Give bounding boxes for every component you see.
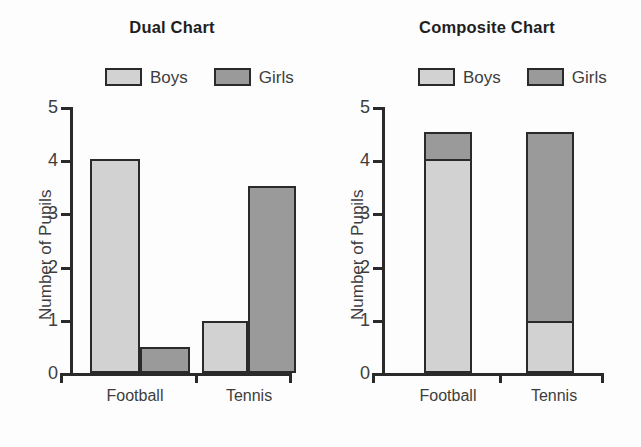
y-tick-label-4: 4	[346, 151, 370, 169]
bar-tennis-girls	[526, 132, 574, 323]
y-tick-label-4: 4	[34, 151, 58, 169]
legend-label-girls: Girls	[259, 69, 294, 86]
y-tick-4	[373, 160, 383, 163]
legend-dual: Boys Girls	[105, 68, 294, 86]
bar-football-girls	[140, 347, 190, 373]
chart-title-dual: Dual Chart	[0, 18, 320, 37]
y-tick-label-0: 0	[34, 364, 58, 382]
y-axis-line	[70, 107, 73, 374]
x-tick-label-football: Football	[80, 387, 190, 405]
legend-label-girls: Girls	[572, 69, 607, 86]
y-tick-2	[61, 267, 71, 270]
plot-area-dual: 5 4 3 2 1 0 Football Tennis	[70, 107, 292, 373]
y-tick-4	[61, 160, 71, 163]
legend-swatch-girls-icon	[214, 68, 251, 86]
bar-football-boys	[90, 159, 140, 373]
y-tick-5	[61, 107, 71, 110]
legend-item-girls: Girls	[214, 68, 294, 86]
chart-title-composite: Composite Chart	[320, 18, 640, 37]
x-tick-end	[289, 373, 292, 383]
legend-label-boys: Boys	[463, 69, 501, 86]
x-tick-label-tennis: Tennis	[202, 387, 296, 405]
x-tick-start	[60, 373, 63, 383]
chart-dual: Dual Chart Boys Girls Number of Pupils 5…	[0, 0, 320, 447]
y-tick-3	[61, 213, 71, 216]
x-tick-start	[372, 373, 375, 383]
y-tick-1	[61, 320, 71, 323]
y-tick-label-5: 5	[346, 98, 370, 116]
bar-football-girls	[424, 132, 472, 161]
x-tick-end	[601, 373, 604, 383]
legend-item-boys: Boys	[418, 68, 501, 86]
bar-tennis-boys	[526, 321, 574, 373]
y-tick-label-2: 2	[346, 258, 370, 276]
bar-tennis-boys	[202, 321, 248, 373]
x-axis-line	[372, 373, 604, 376]
figure-canvas: Dual Chart Boys Girls Number of Pupils 5…	[0, 0, 641, 447]
y-tick-3	[373, 213, 383, 216]
y-tick-5	[373, 107, 383, 110]
y-tick-2	[373, 267, 383, 270]
x-axis-line	[60, 373, 292, 376]
legend-swatch-girls-icon	[527, 68, 564, 86]
legend-item-girls: Girls	[527, 68, 607, 86]
y-tick-label-3: 3	[346, 204, 370, 222]
bar-tennis-girls	[248, 186, 296, 373]
y-axis-line	[382, 107, 385, 374]
legend-label-boys: Boys	[150, 69, 188, 86]
bar-football-boys	[424, 159, 472, 373]
y-tick-1	[373, 320, 383, 323]
y-tick-label-0: 0	[346, 364, 370, 382]
plot-area-composite: 5 4 3 2 1 0 Football Tennis	[382, 107, 604, 373]
x-tick-label-football: Football	[394, 387, 502, 405]
x-tick-mid	[195, 373, 198, 383]
y-tick-label-3: 3	[34, 204, 58, 222]
legend-item-boys: Boys	[105, 68, 188, 86]
legend-composite: Boys Girls	[418, 68, 607, 86]
chart-composite: Composite Chart Boys Girls Number of Pup…	[320, 0, 640, 447]
y-tick-label-2: 2	[34, 258, 58, 276]
y-tick-label-1: 1	[34, 311, 58, 329]
y-tick-label-5: 5	[34, 98, 58, 116]
x-tick-mid	[499, 373, 502, 383]
legend-swatch-boys-icon	[418, 68, 455, 86]
legend-swatch-boys-icon	[105, 68, 142, 86]
x-tick-label-tennis: Tennis	[506, 387, 602, 405]
y-tick-label-1: 1	[346, 311, 370, 329]
